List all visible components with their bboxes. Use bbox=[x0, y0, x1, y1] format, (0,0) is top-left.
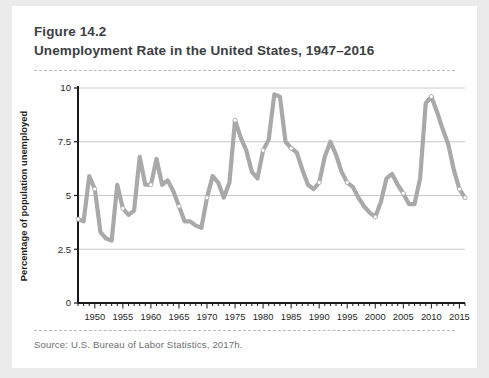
data-point-marker bbox=[373, 215, 377, 219]
x-tick-label: 1965 bbox=[169, 311, 190, 322]
y-tick-label: 7.5 bbox=[58, 136, 71, 147]
data-line-unemployment bbox=[78, 94, 465, 240]
figure-number: Figure 14.2 bbox=[34, 22, 454, 41]
data-point-marker bbox=[401, 191, 405, 195]
data-point-marker bbox=[457, 187, 461, 191]
y-tick-label: 2.5 bbox=[58, 244, 71, 255]
data-point-marker bbox=[317, 181, 321, 185]
x-tick-label: 1970 bbox=[197, 311, 218, 322]
x-tick-label: 2005 bbox=[393, 311, 414, 322]
y-axis-ticks-group: 02.557.510 bbox=[58, 82, 78, 308]
figure-card: Figure 14.2 Unemployment Rate in the Uni… bbox=[12, 6, 477, 368]
x-tick-label: 2015 bbox=[449, 311, 470, 322]
x-tick-label: 1980 bbox=[253, 311, 274, 322]
y-tick-label: 0 bbox=[66, 297, 71, 308]
y-tick-label: 10 bbox=[60, 82, 71, 93]
x-tick-label: 2000 bbox=[365, 311, 386, 322]
data-point-marker bbox=[261, 148, 265, 152]
data-point-marker bbox=[149, 183, 153, 187]
unemployment-line-chart: 02.557.510 19501955196019651970197519801… bbox=[12, 70, 477, 328]
x-tick-label: 1950 bbox=[84, 311, 105, 322]
chart-plot-area: 02.557.510 19501955196019651970197519801… bbox=[12, 70, 477, 328]
data-point-marker bbox=[289, 146, 293, 150]
y-tick-label: 5 bbox=[66, 190, 71, 201]
x-tick-label: 1955 bbox=[112, 311, 133, 322]
x-tick-label: 1995 bbox=[337, 311, 358, 322]
x-tick-label: 1990 bbox=[309, 311, 330, 322]
data-point-marker bbox=[429, 95, 433, 99]
data-point-marker bbox=[76, 217, 80, 221]
data-point-marker bbox=[93, 187, 97, 191]
x-tick-label: 1975 bbox=[225, 311, 246, 322]
figure-header: Figure 14.2 Unemployment Rate in the Uni… bbox=[34, 22, 454, 60]
figure-title: Unemployment Rate in the United States, … bbox=[34, 41, 454, 60]
x-tick-label: 1960 bbox=[140, 311, 161, 322]
x-axis-ticks-group: 1950195519601965197019751980198519901995… bbox=[78, 303, 470, 322]
data-point-marker bbox=[345, 181, 349, 185]
data-point-marker bbox=[121, 206, 125, 210]
y-axis-label: Percentage of population unemployed bbox=[18, 111, 29, 282]
x-tick-label: 2010 bbox=[421, 311, 442, 322]
source-note: Source: U.S. Bureau of Labor Statistics,… bbox=[34, 339, 243, 350]
data-point-marker bbox=[205, 196, 209, 200]
x-tick-label: 1985 bbox=[281, 311, 302, 322]
data-point-marker bbox=[463, 196, 467, 200]
data-point-marker bbox=[177, 204, 181, 208]
data-point-marker bbox=[233, 118, 237, 122]
divider-bottom bbox=[34, 330, 455, 331]
